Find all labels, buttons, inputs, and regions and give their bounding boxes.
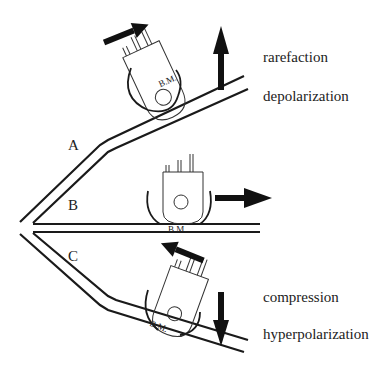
arrow-right-icon (215, 188, 272, 208)
hair-cell-diagram: B.M. B.M. B.M. A B C rarefaction depolar… (0, 0, 389, 374)
region-label-c: C (68, 248, 78, 265)
state-bottom-line1: compression (263, 289, 339, 306)
arrow-up-icon (213, 26, 229, 90)
supporting-cup-b (147, 191, 160, 224)
region-label-a: A (68, 137, 79, 154)
region-label-b: B (68, 197, 78, 214)
arrow-c-deflection-icon (158, 236, 207, 268)
membrane-label-b: B.M. (168, 224, 187, 234)
hair-cell-b (163, 154, 203, 224)
state-top-line2: depolarization (263, 88, 349, 105)
arrow-a-deflection-icon (101, 17, 151, 50)
state-top-line1: rarefaction (263, 49, 328, 66)
diagram-drawing (0, 0, 389, 374)
state-bottom-line2: hyperpolarization (263, 326, 369, 343)
arrow-down-icon (213, 292, 229, 346)
